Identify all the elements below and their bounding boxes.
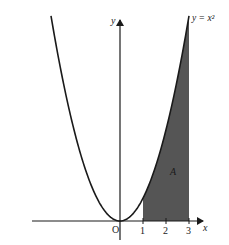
- x-axis-label: x: [202, 222, 208, 233]
- parabola-area-figure: 123 y x O y = x² A: [0, 0, 229, 245]
- x-tick-label: 2: [163, 225, 168, 236]
- x-tick-label: 1: [140, 225, 145, 236]
- x-tick-label: 3: [186, 225, 191, 236]
- curve-label: y = x²: [191, 13, 215, 23]
- origin-label: O: [112, 224, 119, 235]
- y-axis-label: y: [110, 15, 116, 26]
- shaded-region-a: [143, 16, 189, 221]
- region-label-a: A: [169, 166, 177, 177]
